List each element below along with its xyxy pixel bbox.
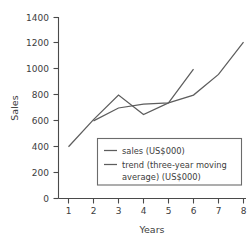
series-line-sales (69, 42, 244, 147)
chart-legend: sales (US$000) trend (three-year moving … (98, 139, 242, 186)
y-tick-label-1400: 1400 (26, 13, 49, 23)
x-tick-label-4: 4 (141, 206, 147, 216)
legend-label-trend-line2: average) (US$000) (122, 172, 201, 182)
y-tick-label-1200: 1200 (26, 38, 49, 48)
x-axis-title: Years (138, 224, 164, 235)
x-tick-label-1: 1 (66, 206, 72, 216)
y-axis-title: Sales (9, 95, 20, 120)
y-tick-label-200: 200 (32, 168, 49, 178)
x-tick-label-3: 3 (116, 206, 122, 216)
x-tick-label-2: 2 (91, 206, 97, 216)
series-group (69, 42, 244, 147)
y-tick-label-600: 600 (32, 116, 49, 126)
x-axis-ticks (69, 199, 244, 204)
y-tick-label-1000: 1000 (26, 64, 49, 74)
x-tick-label-5: 5 (166, 206, 172, 216)
legend-label-trend-line1: trend (three-year moving (122, 160, 227, 170)
y-tick-label-400: 400 (32, 142, 49, 152)
chart-plot-area: 0 200 400 600 800 1000 1200 1400 1 2 3 4… (0, 0, 248, 241)
legend-label-sales: sales (US$000) (122, 146, 185, 156)
x-tick-label-8: 8 (241, 206, 247, 216)
y-axis-ticks (54, 18, 59, 199)
y-tick-label-800: 800 (32, 90, 49, 100)
x-tick-label-6: 6 (191, 206, 197, 216)
series-line-trend (94, 69, 194, 121)
sales-trend-line-chart: 0 200 400 600 800 1000 1200 1400 1 2 3 4… (0, 0, 248, 241)
x-tick-label-7: 7 (216, 206, 222, 216)
y-tick-label-0: 0 (43, 194, 49, 204)
